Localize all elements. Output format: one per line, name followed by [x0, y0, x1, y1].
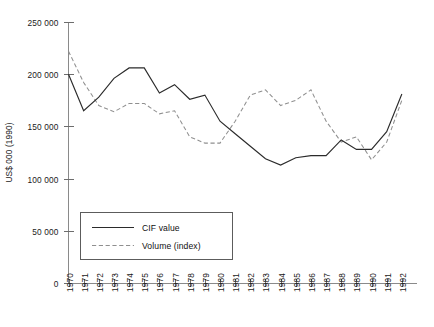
- x-tick-label: 1981: [231, 273, 241, 292]
- x-tick-label: 1990: [368, 273, 378, 292]
- series-line-volume-index: [69, 51, 402, 160]
- series-line-cif-value: [69, 68, 402, 165]
- x-tick-label: 1971: [80, 273, 90, 292]
- x-tick-label: 1973: [110, 273, 120, 292]
- legend-label-volume-index: Volume (index): [142, 241, 201, 251]
- x-tick-group: 1970197119721973197419751976197719781979…: [65, 273, 408, 292]
- x-tick-label: 1982: [246, 273, 256, 292]
- legend-label-cif-value: CIF value: [142, 223, 180, 233]
- x-tick-label: 1974: [125, 273, 135, 292]
- y-tick-label: 50 000: [32, 227, 59, 237]
- x-tick-label: 1987: [322, 273, 332, 292]
- x-tick-label: 1979: [201, 273, 211, 292]
- x-tick-label: 1972: [95, 273, 105, 292]
- y-axis-title: US$ 000 (1990): [4, 122, 14, 182]
- y-tick-label: 150 000: [27, 122, 58, 132]
- legend: CIF value Volume (index): [81, 213, 233, 260]
- y-tick-label: 100 000: [27, 175, 58, 185]
- y-tick-label: 200 000: [27, 70, 58, 80]
- series-group: [69, 51, 402, 165]
- chart-container: 050 000100 000150 000200 000250 000 US$ …: [0, 0, 434, 327]
- x-tick-label: 1991: [383, 273, 393, 292]
- x-tick-label: 1970: [65, 273, 75, 292]
- y-tick-label: 250 000: [27, 18, 58, 28]
- x-tick-label: 1976: [155, 273, 165, 292]
- x-tick-label: 1985: [292, 273, 302, 292]
- x-tick-label: 1978: [186, 273, 196, 292]
- x-tick-label: 1992: [398, 273, 408, 292]
- x-tick-label: 1988: [337, 273, 347, 292]
- y-tick-group: 050 000100 000150 000200 000250 000: [27, 18, 73, 289]
- x-tick-label: 1977: [171, 273, 181, 292]
- x-tick-label: 1983: [261, 273, 271, 292]
- x-tick-label: 1986: [307, 273, 317, 292]
- x-tick-label: 1980: [216, 273, 226, 292]
- x-axis: 1970197119721973197419751976197719781979…: [65, 273, 418, 292]
- x-tick-label: 1975: [140, 273, 150, 292]
- y-tick-label: 0: [54, 279, 59, 289]
- x-tick-label: 1989: [352, 273, 362, 292]
- y-axis-label: US$ 000 (1990): [4, 122, 14, 182]
- line-chart: 050 000100 000150 000200 000250 000 US$ …: [0, 0, 434, 327]
- legend-box: [81, 213, 233, 260]
- x-tick-label: 1984: [277, 273, 287, 292]
- y-axis: 050 000100 000150 000200 000250 000 US$ …: [4, 18, 74, 289]
